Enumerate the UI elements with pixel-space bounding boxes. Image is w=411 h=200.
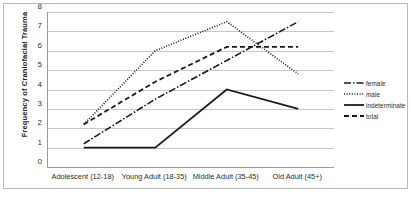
- plot-area: [47, 12, 334, 168]
- y-tick-label: 3: [26, 100, 42, 108]
- y-tick-label: 2: [26, 119, 42, 127]
- y-tick-label: 6: [26, 42, 42, 50]
- chart-legend: female male indeterminate total: [344, 78, 410, 122]
- legend-key-solid-icon: [344, 101, 364, 109]
- legend-label: male: [366, 91, 380, 98]
- legend-key-dashed-icon: [344, 112, 364, 120]
- x-tick-label: Middle Adult (35-45): [193, 172, 259, 181]
- series-line-male: [84, 22, 299, 125]
- x-tick-label: Old Adult (45+): [272, 172, 322, 181]
- y-tick-label: 4: [26, 81, 42, 89]
- series-lines: [48, 12, 334, 167]
- chart-figure: Frequency of Craniofacial Trauma 0123456…: [0, 0, 411, 200]
- series-line-total: [84, 47, 299, 125]
- y-tick-label: 1: [26, 139, 42, 147]
- series-line-female: [84, 22, 299, 144]
- x-axis-tick-labels: Adolescent (12-18)Young Adult (18-35)Mid…: [47, 172, 333, 186]
- legend-label: indeterminate: [366, 102, 405, 109]
- y-tick-label: 8: [26, 3, 42, 11]
- y-tick-label: 0: [26, 158, 42, 166]
- legend-label: total: [366, 113, 378, 120]
- legend-item-male: male: [344, 89, 410, 99]
- y-tick-label: 5: [26, 61, 42, 69]
- series-line-indeterminate: [84, 90, 299, 148]
- legend-key-dash-dot-icon: [344, 79, 364, 87]
- y-tick-label: 7: [26, 22, 42, 30]
- y-axis-tick-labels: 012345678: [26, 7, 42, 171]
- legend-item-indeterminate: indeterminate: [344, 100, 410, 110]
- x-tick-label: Adolescent (12-18): [52, 172, 114, 181]
- legend-key-dotted-icon: [344, 90, 364, 98]
- x-tick-label: Young Adult (18-35): [122, 172, 187, 181]
- legend-item-female: female: [344, 78, 410, 88]
- legend-item-total: total: [344, 111, 410, 121]
- legend-label: female: [366, 80, 385, 87]
